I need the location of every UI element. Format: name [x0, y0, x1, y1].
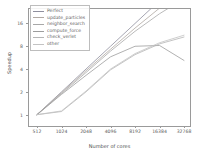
- legend-line-swatch: [33, 24, 44, 25]
- x-axis-label: Number of cores: [28, 143, 191, 149]
- legend-label: check_verlet: [47, 34, 76, 41]
- x-tick-label: 16384: [152, 129, 167, 134]
- legend-line-swatch: [33, 44, 44, 45]
- legend-label: compute_force: [47, 28, 81, 35]
- x-tick-label: 512: [33, 129, 42, 134]
- y-tick-mark: [26, 115, 28, 116]
- x-tick-label: 2048: [80, 129, 92, 134]
- legend-label: neighbor_search: [47, 21, 85, 28]
- legend-line-swatch: [33, 31, 44, 32]
- y-tick-label: 16: [6, 21, 23, 26]
- x-tick-label: 32768: [177, 129, 192, 134]
- chart-legend: Perfectupdate_particlesneighbor_searchco…: [30, 5, 90, 51]
- speedup-chart-figure: 124816 51210242048409681921638432768 Num…: [0, 0, 205, 159]
- y-tick-mark: [26, 23, 28, 24]
- legend-item[interactable]: other: [33, 41, 85, 48]
- x-tick-label: 8192: [129, 129, 141, 134]
- legend-item[interactable]: Perfect: [33, 8, 85, 15]
- y-tick-mark: [26, 69, 28, 70]
- x-tick-mark: [62, 126, 63, 128]
- y-tick-label: 2: [6, 89, 23, 94]
- x-tick-mark: [37, 126, 38, 128]
- x-tick-mark: [111, 126, 112, 128]
- x-tick-mark: [135, 126, 136, 128]
- legend-item[interactable]: compute_force: [33, 28, 85, 35]
- x-tick-mark: [184, 126, 185, 128]
- legend-line-swatch: [33, 37, 44, 38]
- legend-label: Perfect: [47, 8, 63, 15]
- legend-line-swatch: [33, 11, 44, 12]
- legend-line-swatch: [33, 17, 44, 18]
- legend-item[interactable]: check_verlet: [33, 34, 85, 41]
- y-axis-label: Speedup: [6, 41, 12, 85]
- legend-item[interactable]: neighbor_search: [33, 21, 85, 28]
- series-line: [37, 45, 184, 114]
- y-tick-mark: [26, 46, 28, 47]
- legend-item[interactable]: update_particles: [33, 15, 85, 22]
- legend-label: other: [47, 41, 59, 48]
- x-tick-label: 1024: [56, 129, 68, 134]
- y-tick-mark: [26, 92, 28, 93]
- x-tick-label: 4096: [105, 129, 117, 134]
- legend-label: update_particles: [47, 15, 85, 22]
- x-tick-mark: [160, 126, 161, 128]
- x-tick-mark: [86, 126, 87, 128]
- y-tick-label: 1: [6, 112, 23, 117]
